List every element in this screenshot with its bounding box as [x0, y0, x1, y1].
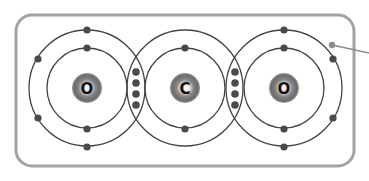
electron-dot	[181, 125, 188, 132]
nucleus-left-oxygen: O	[72, 73, 102, 103]
electron-dot	[34, 55, 41, 62]
shared-electron	[132, 79, 140, 87]
shared-electron	[132, 101, 140, 109]
shared-electron	[231, 68, 239, 76]
co2-diagram: O C O	[0, 0, 369, 181]
atom-symbol-o-left: O	[81, 80, 94, 98]
electron-dot	[83, 44, 90, 51]
label-pointer	[329, 42, 369, 53]
electron-dot	[280, 26, 287, 33]
double-bond-right	[231, 68, 239, 109]
pointer-dot	[329, 42, 335, 48]
electron-dot	[280, 143, 287, 150]
double-bond-left	[132, 68, 140, 109]
shared-electron	[132, 90, 140, 98]
shared-electron	[231, 79, 239, 87]
electron-dot	[280, 44, 287, 51]
nucleus-right-oxygen: O	[269, 73, 299, 103]
shared-electron	[132, 68, 140, 76]
shared-electron	[231, 90, 239, 98]
electron-dot	[280, 125, 287, 132]
electron-dot	[83, 143, 90, 150]
atom-symbol-c: C	[179, 80, 190, 98]
electron-dot	[329, 114, 336, 121]
electron-dot	[34, 114, 41, 121]
electron-dot	[181, 44, 188, 51]
electron-dot	[83, 125, 90, 132]
nucleus-carbon: C	[170, 73, 200, 103]
electron-dot	[83, 26, 90, 33]
electron-dot	[329, 55, 336, 62]
shared-electron	[231, 101, 239, 109]
atom-symbol-o-right: O	[278, 80, 291, 98]
